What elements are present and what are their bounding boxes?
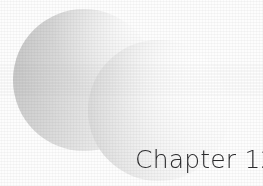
chapter-divider-page: Chapter 12	[0, 0, 263, 186]
page-title: Chapter 12	[135, 145, 255, 175]
